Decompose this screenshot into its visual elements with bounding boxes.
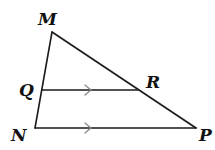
label-n: N bbox=[10, 125, 28, 145]
label-q: Q bbox=[19, 80, 34, 100]
segment-mp bbox=[52, 32, 196, 128]
label-r: R bbox=[145, 72, 160, 92]
label-m: M bbox=[37, 9, 58, 29]
segment-mn bbox=[35, 32, 52, 128]
triangle-diagram: M Q N R P bbox=[0, 0, 215, 150]
label-p: P bbox=[198, 125, 213, 145]
